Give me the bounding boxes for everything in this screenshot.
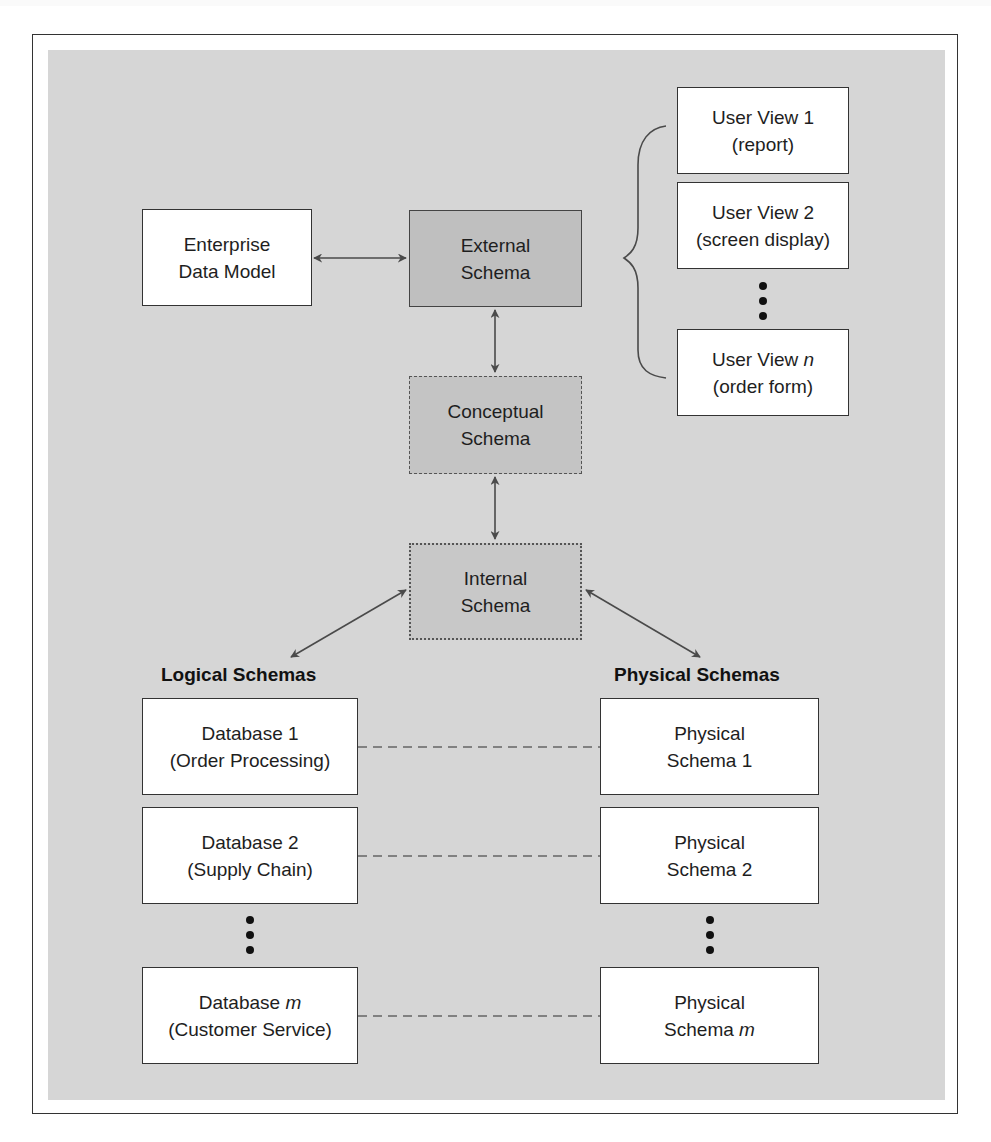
user-view-1-box: User View 1 (report) (677, 87, 849, 174)
logical-schemas-heading: Logical Schemas (161, 664, 316, 686)
user-views-ellipsis (758, 282, 768, 327)
user-view-n-box: User View n (order form) (677, 329, 849, 416)
enterprise-line1: Enterprise (184, 231, 271, 258)
database-2-line2: (Supply Chain) (187, 856, 313, 883)
external-line1: External (461, 232, 531, 259)
user-view-2-line1: User View 2 (712, 199, 814, 226)
database-1-line2: (Order Processing) (170, 747, 331, 774)
physical-schemas-heading: Physical Schemas (614, 664, 780, 686)
physical-2-line1: Physical (674, 829, 745, 856)
physical-schema-m-box: Physical Schema m (600, 967, 819, 1064)
conceptual-schema-box: Conceptual Schema (409, 376, 582, 474)
physical-schema-1-box: Physical Schema 1 (600, 698, 819, 795)
internal-schema-box: Internal Schema (409, 543, 582, 640)
internal-line2: Schema (461, 592, 531, 619)
external-line2: Schema (461, 259, 531, 286)
database-m-line2: (Customer Service) (168, 1016, 332, 1043)
cropped-caption-stub (0, 0, 991, 6)
user-view-2-box: User View 2 (screen display) (677, 182, 849, 269)
database-m-box: Database m (Customer Service) (142, 967, 358, 1064)
database-m-line1: Database m (199, 989, 301, 1016)
physical-1-line1: Physical (674, 720, 745, 747)
conceptual-line2: Schema (461, 425, 531, 452)
database-2-box: Database 2 (Supply Chain) (142, 807, 358, 904)
database-1-box: Database 1 (Order Processing) (142, 698, 358, 795)
enterprise-line2: Data Model (178, 258, 275, 285)
user-view-n-line1: User View n (712, 346, 814, 373)
enterprise-data-model-box: Enterprise Data Model (142, 209, 312, 306)
user-view-n-line2: (order form) (713, 373, 813, 400)
physical-1-line2: Schema 1 (667, 747, 753, 774)
physical-2-line2: Schema 2 (667, 856, 753, 883)
physical-schemas-ellipsis (705, 916, 715, 961)
internal-line1: Internal (464, 565, 527, 592)
physical-schema-2-box: Physical Schema 2 (600, 807, 819, 904)
physical-m-line1: Physical (674, 989, 745, 1016)
user-view-1-line2: (report) (732, 131, 794, 158)
database-2-line1: Database 2 (201, 829, 298, 856)
external-schema-box: External Schema (409, 210, 582, 307)
conceptual-line1: Conceptual (447, 398, 543, 425)
physical-m-line2: Schema m (664, 1016, 755, 1043)
database-1-line1: Database 1 (201, 720, 298, 747)
user-view-2-line2: (screen display) (696, 226, 830, 253)
databases-ellipsis (245, 916, 255, 961)
user-view-1-line1: User View 1 (712, 104, 814, 131)
